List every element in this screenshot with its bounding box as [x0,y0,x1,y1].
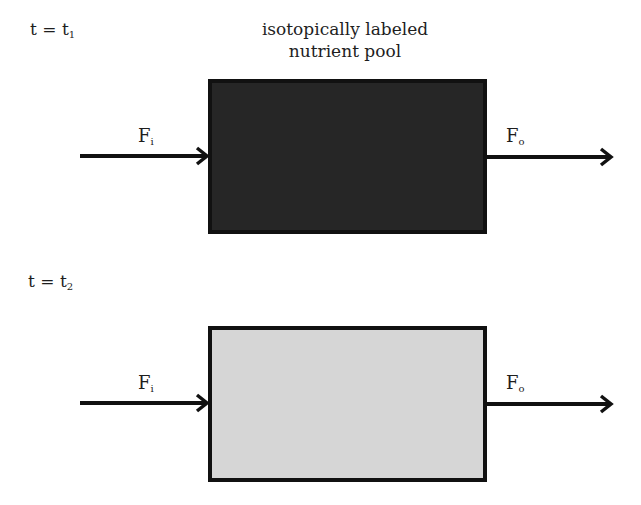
title-line-1: isotopically labeled [255,18,435,40]
time-label-t1: t = t1 [30,19,75,40]
outflow-label-text: F [506,372,519,393]
inflow-subscript: i [151,383,154,394]
outflow-subscript: o [519,136,525,147]
outflow-subscript: o [519,383,525,394]
outflow-label-t2: Fo [506,372,525,394]
inflow-subscript: i [151,136,154,147]
outflow-label-text: F [506,125,519,146]
time-subscript: 1 [69,29,75,40]
pool-title: isotopically labeled nutrient pool [255,18,435,62]
inflow-label-t1: Fi [138,125,154,147]
inflow-label-t2: Fi [138,372,154,394]
time-subscript: 2 [67,281,73,292]
labeled-pool-box [208,79,487,234]
time-label-text: t = t [28,271,67,291]
outflow-label-t1: Fo [506,125,525,147]
inflow-label-text: F [138,125,151,146]
time-label-t2: t = t2 [28,271,73,292]
time-label-text: t = t [30,19,69,39]
inflow-label-text: F [138,372,151,393]
unlabeled-pool-box [208,326,487,482]
title-line-2: nutrient pool [255,40,435,62]
